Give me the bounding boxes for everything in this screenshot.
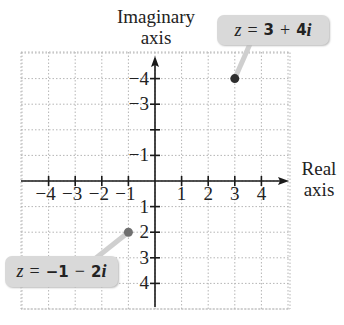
y-tick-label: −1 — [111, 145, 149, 165]
y-axis-title-line2: axis — [101, 27, 211, 48]
y-tick-label: 2 — [111, 222, 149, 242]
y-tick-label: 1 — [111, 197, 149, 217]
callout-real-part: −1 — [46, 263, 69, 281]
callout-operator: + — [280, 20, 290, 41]
callout-equals: = — [247, 20, 257, 41]
y-tick-label: −4 — [111, 69, 149, 89]
callout-equals: = — [30, 261, 40, 282]
callout-operator: − — [75, 261, 85, 282]
y-tick-label: −3 — [111, 94, 149, 114]
callout-real-part: 3 — [264, 21, 274, 39]
x-axis-title-line2: axis — [294, 179, 344, 200]
x-axis-title: Real axis — [294, 158, 344, 200]
callout-point-3-plus-4i: z = 3 + 4i — [217, 15, 329, 45]
complex-plane-figure: Imaginary axis Real axis −4−3−2−11234 43… — [0, 0, 344, 325]
callout-z: z — [17, 261, 24, 282]
x-axis-title-line1: Real — [294, 158, 344, 179]
callout-z: z — [234, 20, 241, 41]
callout-imag-part: 4 — [296, 21, 306, 39]
y-axis-title-line1: Imaginary — [101, 6, 211, 27]
callout-i: i — [307, 20, 312, 41]
x-tick-label: 4 — [241, 184, 281, 204]
callout-imag-part: 2 — [91, 263, 101, 281]
data-point — [230, 74, 239, 83]
callout-point-minus1-minus-2i: z = −1 − 2i — [5, 256, 118, 287]
callout-i: i — [101, 261, 106, 282]
y-axis-title: Imaginary axis — [101, 6, 211, 48]
